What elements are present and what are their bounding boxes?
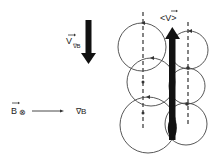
drift-diagram: V ∇B B ⊗ ∇B: [0, 0, 219, 158]
mean-velocity-label: <V>: [160, 10, 178, 23]
orbit-arrow-icon: [186, 66, 190, 70]
field-label: B ⊗: [11, 102, 26, 117]
orbit-circle: [118, 23, 166, 71]
orbit-circle: [127, 58, 175, 106]
mean-velocity-arrow: [165, 27, 180, 140]
field-label-text: B: [11, 106, 17, 116]
drift-velocity-label: V ∇B: [66, 34, 81, 50]
orbit-arrow-icon: [188, 29, 192, 33]
gradient-label: ∇B: [75, 107, 86, 116]
orbit-arrow-icon: [185, 102, 189, 106]
orbit-arrow-icon: [150, 56, 154, 60]
orbit-arrow-icon: [146, 95, 150, 99]
gradient-arrow: [32, 110, 64, 113]
drift-velocity-label-main: V: [66, 36, 72, 46]
drift-velocity-arrow: [81, 20, 96, 64]
mean-velocity-label-text: <V>: [160, 13, 177, 23]
drift-velocity-label-sub: ∇B: [72, 43, 81, 49]
orbit-arrow-icon: [142, 112, 145, 115]
field-into-page-icon: ⊗: [19, 108, 26, 117]
orbit-arrow-icon: [142, 81, 145, 84]
